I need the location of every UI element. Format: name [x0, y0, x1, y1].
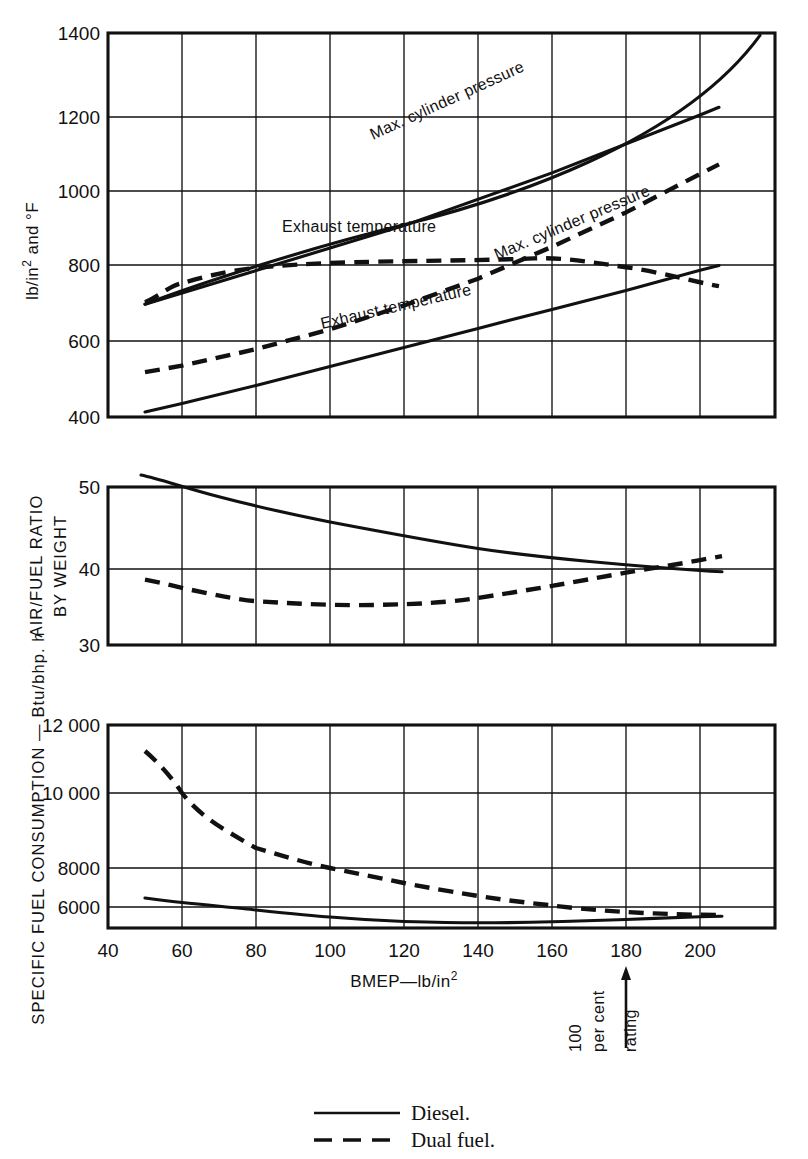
panel-bottom: 12 000 10 000 8000 6000 SPECIFIC FUEL CO… [29, 631, 775, 1024]
ytick-30: 30 [79, 635, 100, 656]
bottom-panel-y-axis-title: SPECIFIC FUEL CONSUMPTION — Btu/bhp. h [29, 631, 47, 1024]
ytick-50: 50 [79, 477, 100, 498]
ytitle-pre: lb/in [23, 267, 42, 300]
middle-ytitle-line2: BY WEIGHT [51, 515, 69, 617]
up-arrow-icon [621, 966, 631, 980]
label-max-cylinder-pressure-dualfuel: Max. cylinder pressure [492, 182, 653, 263]
ytick-800: 800 [68, 255, 100, 276]
chart-canvas: 1400 1200 1000 800 600 400 lb/in2 and °F… [0, 0, 808, 1159]
legend-label-dual-fuel: Dual fuel. [411, 1128, 495, 1152]
engine-performance-figure: 1400 1200 1000 800 600 400 lb/in2 and °F… [0, 0, 808, 1159]
ytick-1400: 1400 [58, 23, 100, 44]
xtick-100: 100 [314, 940, 346, 961]
label-max-cylinder-pressure-diesel: Max. cylinder pressure [367, 58, 527, 143]
curve-sfc-dualfuel [145, 751, 722, 915]
rating-annotation-line3: rating [622, 1009, 639, 1052]
bottom-panel-frame [108, 725, 775, 928]
xtitle-superscript: 2 [451, 969, 458, 983]
rating-annotation: 100 per cent rating [567, 966, 639, 1052]
label-exhaust-temperature-diesel: Exhaust temperature [319, 281, 473, 332]
ytick-6000: 6000 [58, 897, 100, 918]
ytick-40: 40 [79, 559, 100, 580]
panel-top: 1400 1200 1000 800 600 400 lb/in2 and °F… [20, 23, 775, 428]
xtick-120: 120 [388, 940, 420, 961]
ytick-1200: 1200 [58, 107, 100, 128]
panel-middle: 50 40 30 AIR/FUEL RATIO BY WEIGHT [27, 475, 775, 656]
ytitle-post: and °F [23, 202, 42, 260]
label-exhaust-temperature-dualfuel: Exhaust temperature [282, 218, 436, 235]
xtick-60: 60 [171, 940, 192, 961]
middle-panel-y-axis-title: AIR/FUEL RATIO [27, 495, 45, 638]
ytick-400: 400 [68, 407, 100, 428]
curve-max-cyl-pressure-diesel [145, 35, 760, 304]
ytick-10000: 10 000 [42, 783, 100, 804]
bottom-panel-gridlines [108, 725, 775, 928]
xtick-40: 40 [97, 940, 118, 961]
xtick-200: 200 [684, 940, 716, 961]
top-panel-frame [108, 33, 775, 417]
xtitle-text: BMEP—lb/in [350, 972, 450, 991]
xtick-180: 180 [610, 940, 642, 961]
bottom-ytitle: SPECIFIC FUEL CONSUMPTION — Btu/bhp. h [29, 631, 47, 1024]
top-panel-gridlines [108, 33, 775, 417]
ytick-600: 600 [68, 331, 100, 352]
xtick-80: 80 [245, 940, 266, 961]
xtick-140: 140 [462, 940, 494, 961]
rating-annotation-line1: 100 [567, 1024, 584, 1052]
bottom-panel-x-ticks: 40 60 80 100 120 140 160 180 200 [97, 940, 715, 961]
xtick-160: 160 [536, 940, 568, 961]
legend-label-diesel: Diesel. [411, 1101, 470, 1125]
svg-text:lb/in2 and °F: lb/in2 and °F [20, 202, 42, 300]
ytick-8000: 8000 [58, 858, 100, 879]
ytick-12000: 12 000 [42, 715, 100, 736]
middle-panel-y-axis-title-2: BY WEIGHT [51, 515, 69, 617]
bottom-panel-y-ticks: 12 000 10 000 8000 6000 [42, 715, 100, 918]
middle-panel-y-ticks: 50 40 30 [79, 477, 100, 656]
curve-air-fuel-ratio-diesel [141, 475, 722, 572]
legend: Diesel. Dual fuel. [314, 1101, 495, 1152]
x-axis-title: BMEP—lb/in2 [350, 969, 457, 991]
ytitle-superscript: 2 [20, 260, 34, 267]
rating-annotation-line2: per cent [590, 990, 607, 1052]
ytick-1000: 1000 [58, 181, 100, 202]
top-panel-y-axis-title: lb/in2 and °F [20, 202, 42, 300]
top-panel-y-ticks: 1400 1200 1000 800 600 400 [58, 23, 100, 428]
middle-ytitle-line1: AIR/FUEL RATIO [27, 495, 45, 638]
curve-exhaust-temperature-diesel [145, 266, 719, 412]
curve-air-fuel-ratio-dualfuel [145, 556, 722, 605]
